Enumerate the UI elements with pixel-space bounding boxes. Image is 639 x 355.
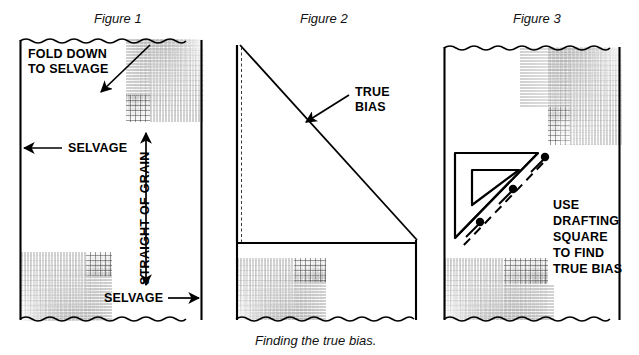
figure-caption: Finding the true bias.: [255, 333, 376, 348]
true-bias-arrow-icon: [306, 95, 349, 122]
illustration-stage: Figure 1 Figure 2 Figure 3: [0, 0, 639, 355]
figure-2-panel: [236, 44, 417, 321]
true-bias-label: TRUE BIAS: [355, 85, 390, 115]
selvage-bottom-label: SELVAGE: [104, 291, 163, 306]
straight-of-grain-label: STRAIGHT OF GRAIN: [138, 151, 152, 285]
selvage-left-label: SELVAGE: [68, 141, 127, 156]
figure-1-panel: [20, 39, 204, 321]
figure-3-panel: [444, 46, 622, 321]
use-drafting-square-label: USE DRAFTING SQUARE TO FIND TRUE BIAS: [553, 197, 622, 277]
fold-down-to-selvage-label: FOLD DOWN TO SELVAGE: [28, 47, 109, 77]
